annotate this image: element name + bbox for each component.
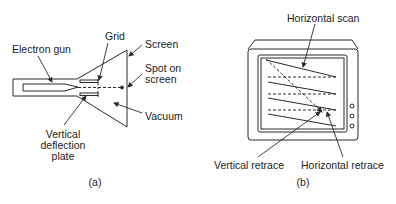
vertical-plate-pointer [64, 96, 86, 125]
label-vacuum: Vacuum [145, 110, 183, 122]
knob-3 [350, 124, 354, 128]
label-spot-on-screen-2: screen [145, 73, 177, 85]
electron-gun [23, 84, 78, 91]
caption-a: (a) [80, 176, 110, 188]
tube-outline [13, 50, 127, 127]
horizontal-scan-pointer [303, 24, 315, 67]
caption-b: (b) [288, 176, 318, 188]
vertical-deflection-plate [80, 93, 98, 96]
label-electron-gun: Electron gun [12, 43, 71, 55]
screen-pointer [129, 45, 142, 56]
horizontal-retrace-pointer [327, 112, 343, 157]
label-horizontal-scan: Horizontal scan [287, 12, 359, 24]
raster-scan [266, 59, 336, 126]
spot-on-screen [121, 86, 124, 89]
crt-tube [13, 50, 127, 127]
label-vertical-deflection-3: plate [38, 150, 88, 162]
upper-deflection-plate [80, 80, 98, 83]
vertical-retrace-pointer [258, 112, 320, 157]
label-grid: Grid [105, 30, 125, 42]
label-screen: Screen [145, 38, 178, 50]
label-vertical-retrace: Vertical retrace [214, 159, 284, 171]
diagram-canvas [0, 0, 396, 204]
knob-1 [350, 104, 354, 108]
knob-2 [350, 114, 354, 118]
monitor [248, 40, 358, 140]
spot-pointer [128, 74, 142, 87]
label-horizontal-retrace: Horizontal retrace [301, 159, 384, 171]
vacuum-pointer [114, 103, 142, 113]
electron-gun-pointer [38, 56, 52, 82]
